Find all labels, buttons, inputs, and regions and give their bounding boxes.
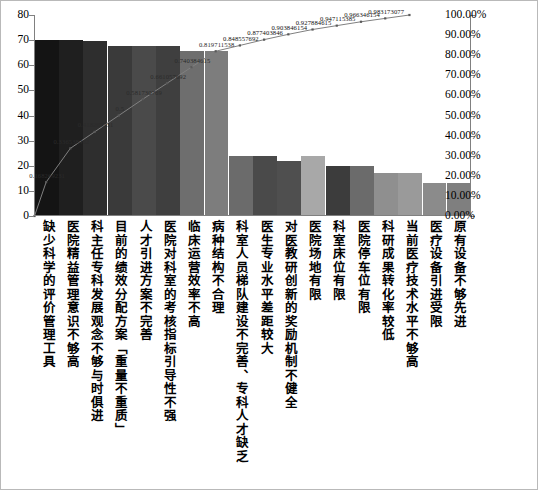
point-label-6: 0.661057692 — [150, 74, 186, 81]
point-label-4: 0.5 — [115, 106, 124, 113]
y-tick-label-right-5: 50.00% — [445, 110, 511, 122]
point-label-5: 0.581730769 — [126, 90, 162, 97]
y-tick-left-80 — [29, 15, 34, 16]
category-label-18: 原有设备不够先进 — [452, 220, 466, 482]
y-tick-label-right-1: 10.00% — [445, 190, 511, 202]
point-label-9: 0.848557692 — [223, 36, 259, 43]
y-tick-left-0 — [29, 216, 34, 217]
y-tick-label-left-0: 0 — [1, 210, 29, 222]
y-tick-left-60 — [29, 65, 34, 66]
y-tick-left-20 — [29, 166, 34, 167]
point-label-layer: 0.1682692310.3365384620.4182692310.50.58… — [34, 15, 471, 216]
point-label-2: 0.336538462 — [53, 139, 89, 146]
category-label-8: 病种结构不合理 — [210, 220, 224, 482]
category-label-9: 科室人员梯队建设不完善、专科人才缺乏 — [234, 220, 248, 482]
y-tick-label-left-10: 10 — [1, 185, 29, 197]
y-tick-label-right-10: 100.00% — [445, 9, 511, 21]
y-tick-label-left-30: 30 — [1, 135, 29, 147]
y-tick-label-left-70: 70 — [1, 34, 29, 46]
y-tick-left-70 — [29, 40, 34, 41]
category-label-2: 医院精益管理意识不够高 — [64, 220, 78, 482]
category-axis-labels: 缺少科学的评价管理工具医院精益管理意识不够高科主任专科发展观念不够与时俱进目前的… — [35, 220, 471, 488]
y-tick-label-right-2: 20.00% — [445, 170, 511, 182]
point-label-7: 0.740384615 — [175, 58, 211, 65]
y-tick-label-right-8: 80.00% — [445, 49, 511, 61]
x-axis-line — [34, 215, 471, 216]
category-label-17: 医疗设备引进受限 — [428, 220, 442, 482]
y-tick-label-right-7: 70.00% — [445, 69, 511, 81]
category-label-10: 医生专业水平差距较大 — [258, 220, 272, 482]
category-label-15: 科研成果转化率较低 — [379, 220, 393, 482]
y-tick-label-right-4: 40.00% — [445, 130, 511, 142]
category-label-11: 对医教研创新的奖励机制不健全 — [282, 220, 296, 482]
category-label-5: 人才引进方案不完善 — [137, 220, 151, 482]
y-tick-label-left-80: 80 — [1, 9, 29, 21]
point-label-8: 0.819711538 — [199, 42, 234, 49]
category-label-14: 医院停车位有限 — [355, 220, 369, 482]
y-tick-left-50 — [29, 90, 34, 91]
plot-area: 0.1682692310.3365384620.4182692310.50.58… — [34, 15, 471, 216]
category-label-6: 医院对科室的考核指标引导性不强 — [161, 220, 175, 482]
y-tick-label-right-6: 60.00% — [445, 89, 511, 101]
category-label-1: 缺少科学的评价管理工具 — [40, 220, 54, 482]
y-axis-left-line — [34, 15, 35, 216]
y-tick-label-left-50: 50 — [1, 84, 29, 96]
y-tick-left-40 — [29, 116, 34, 117]
y-tick-label-left-40: 40 — [1, 110, 29, 122]
chart-frame: 0.1682692310.3365384620.4182692310.50.58… — [0, 0, 538, 490]
y-tick-left-10 — [29, 191, 34, 192]
category-label-16: 当前医疗技术水平不够高 — [403, 220, 417, 482]
category-label-12: 医院场地有限 — [307, 220, 321, 482]
y-tick-label-left-20: 20 — [1, 160, 29, 172]
y-tick-label-left-60: 60 — [1, 59, 29, 71]
y-tick-label-right-9: 90.00% — [445, 29, 511, 41]
point-label-15: 0.983173077 — [368, 9, 404, 16]
category-label-4: 目前的绩效分配方案﹁重量不重质﹂ — [113, 220, 127, 482]
point-label-3: 0.418269231 — [78, 123, 114, 130]
category-label-3: 科主任专科发展观念不够与时俱进 — [89, 220, 103, 482]
y-tick-label-right-3: 30.00% — [445, 150, 511, 162]
y-tick-left-30 — [29, 141, 34, 142]
category-label-7: 临床运营效率不高 — [185, 220, 199, 482]
category-label-13: 科室床位有限 — [331, 220, 345, 482]
